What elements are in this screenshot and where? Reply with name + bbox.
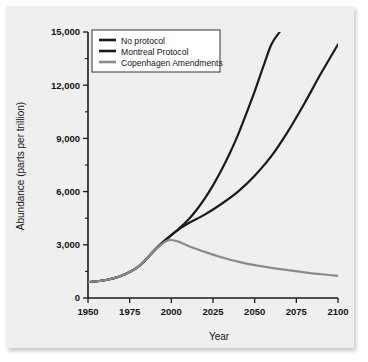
- line-chart: 1950197520002025205020752100 03,0006,000…: [6, 6, 354, 348]
- x-tick-label: 2000: [161, 306, 182, 317]
- x-tick-label: 2075: [286, 306, 308, 317]
- y-tick-label: 3,000: [56, 239, 80, 250]
- x-tick-label: 2100: [327, 306, 348, 317]
- x-tick-label: 1950: [77, 306, 98, 317]
- legend-label-copenhagen-amendments: Copenhagen Amendments: [121, 58, 223, 68]
- x-tick-label: 2050: [244, 306, 265, 317]
- legend-label-no-protocol: No protocol: [121, 36, 165, 46]
- x-axis-title: Year: [209, 331, 230, 342]
- chart-card: 1950197520002025205020752100 03,0006,000…: [6, 6, 354, 348]
- y-tick-label: 9,000: [56, 133, 80, 144]
- x-tick-label: 1975: [119, 306, 141, 317]
- y-tick-label: 12,000: [51, 80, 80, 91]
- y-axis-title: Abundance (parts per trillion): [15, 102, 26, 230]
- y-tick-label: 0: [75, 292, 80, 303]
- y-tick-label: 6,000: [56, 186, 80, 197]
- legend-label-montreal-protocol: Montreal Protocol: [121, 47, 188, 57]
- y-tick-label: 15,000: [51, 26, 80, 37]
- chart-legend: No protocol Montreal Protocol Copenhagen…: [92, 30, 223, 72]
- x-tick-label: 2025: [202, 306, 224, 317]
